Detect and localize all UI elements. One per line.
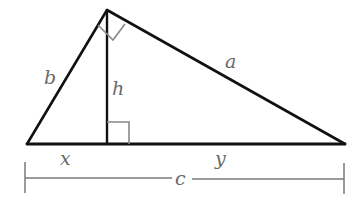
side-a (107, 10, 345, 144)
label-h: h (112, 77, 124, 99)
label-a: a (225, 50, 236, 72)
side-b (27, 10, 107, 144)
triangle-diagram: b h a x y c (0, 0, 358, 207)
right-angle-mark-top (98, 24, 125, 40)
right-angle-mark-foot (107, 122, 129, 144)
label-b: b (44, 66, 56, 88)
label-y: y (214, 147, 226, 169)
label-x: x (60, 147, 71, 169)
label-c: c (175, 167, 186, 189)
